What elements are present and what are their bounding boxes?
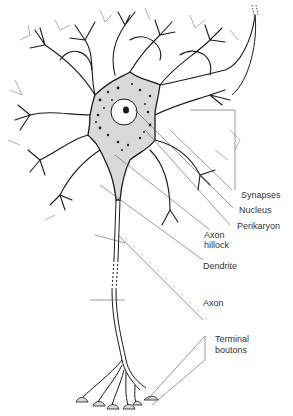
label-synapses: Synapses (241, 190, 281, 200)
label-dendrite: Dendrite (203, 261, 237, 271)
axon (82, 200, 146, 405)
terminal-boutons (76, 396, 158, 409)
leader-synapses (170, 130, 232, 190)
soma (88, 72, 160, 200)
label-nucleus: Nucleus (239, 205, 272, 215)
neuron-diagram: Synapses Nucleus Perikaryon Axon hillock… (0, 0, 293, 416)
label-terminal-boutons-1: Terminal (215, 334, 249, 344)
leader-perikaryon (145, 130, 230, 225)
label-axon-hillock-1: Axon (204, 230, 225, 240)
label-terminal-boutons-2: boutons (215, 345, 247, 355)
label-axon-hillock-2: hillock (204, 240, 229, 250)
label-perikaryon: Perikaryon (237, 221, 280, 231)
leader-terminal-boutons (147, 336, 205, 405)
nucleolus (123, 107, 129, 114)
axon-break-mark-2 (95, 235, 125, 243)
leader-axon-hillock (115, 155, 210, 230)
label-axon: Axon (203, 298, 224, 308)
leader-axon (118, 235, 203, 320)
incoming-axon (232, 15, 256, 95)
leader-nucleus (135, 110, 233, 208)
axon-break (252, 5, 258, 15)
